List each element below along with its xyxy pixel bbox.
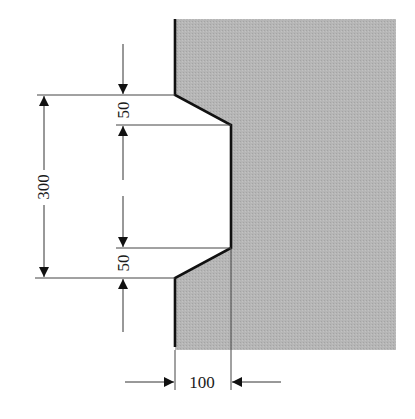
- dimension-label-50-top: 50: [114, 102, 133, 119]
- wall-body: [175, 19, 396, 350]
- dimension-label-100: 100: [189, 373, 215, 392]
- diagram-canvas: 300 50 50 100: [0, 0, 415, 419]
- dimension-label-300: 300: [34, 174, 53, 200]
- dimension-label-50-bottom: 50: [114, 255, 133, 272]
